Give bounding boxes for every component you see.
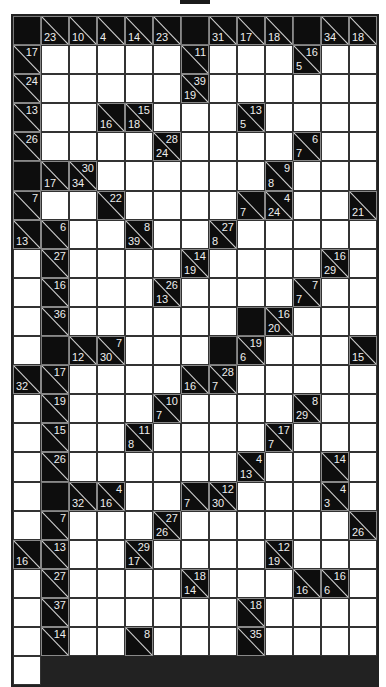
entry-cell[interactable] — [181, 452, 209, 481]
entry-cell[interactable] — [349, 365, 377, 394]
entry-cell[interactable] — [97, 307, 125, 336]
entry-cell[interactable] — [125, 336, 153, 365]
entry-cell[interactable] — [321, 132, 349, 161]
entry-cell[interactable] — [209, 307, 237, 336]
entry-cell[interactable] — [321, 74, 349, 103]
entry-cell[interactable] — [153, 627, 181, 656]
entry-cell[interactable] — [209, 132, 237, 161]
entry-cell[interactable] — [293, 423, 321, 452]
entry-cell[interactable] — [209, 598, 237, 627]
entry-cell[interactable] — [97, 569, 125, 598]
entry-cell[interactable] — [265, 220, 293, 249]
entry-cell[interactable] — [293, 336, 321, 365]
entry-cell[interactable] — [125, 45, 153, 74]
entry-cell[interactable] — [349, 482, 377, 511]
entry-cell[interactable] — [349, 74, 377, 103]
entry-cell[interactable] — [293, 103, 321, 132]
entry-cell[interactable] — [293, 74, 321, 103]
entry-cell[interactable] — [13, 656, 41, 685]
entry-cell[interactable] — [41, 74, 69, 103]
entry-cell[interactable] — [265, 482, 293, 511]
entry-cell[interactable] — [321, 191, 349, 220]
entry-cell[interactable] — [181, 394, 209, 423]
entry-cell[interactable] — [13, 423, 41, 452]
entry-cell[interactable] — [69, 74, 97, 103]
entry-cell[interactable] — [293, 598, 321, 627]
entry-cell[interactable] — [237, 511, 265, 540]
entry-cell[interactable] — [265, 132, 293, 161]
entry-cell[interactable] — [153, 452, 181, 481]
entry-cell[interactable] — [69, 365, 97, 394]
entry-cell[interactable] — [237, 45, 265, 74]
entry-cell[interactable] — [181, 540, 209, 569]
entry-cell[interactable] — [153, 598, 181, 627]
entry-cell[interactable] — [321, 336, 349, 365]
entry-cell[interactable] — [125, 132, 153, 161]
entry-cell[interactable] — [13, 569, 41, 598]
entry-cell[interactable] — [13, 627, 41, 656]
entry-cell[interactable] — [209, 103, 237, 132]
entry-cell[interactable] — [349, 278, 377, 307]
entry-cell[interactable] — [69, 540, 97, 569]
entry-cell[interactable] — [349, 423, 377, 452]
entry-cell[interactable] — [237, 220, 265, 249]
entry-cell[interactable] — [125, 511, 153, 540]
entry-cell[interactable] — [237, 569, 265, 598]
entry-cell[interactable] — [209, 278, 237, 307]
entry-cell[interactable] — [265, 627, 293, 656]
entry-cell[interactable] — [209, 161, 237, 190]
entry-cell[interactable] — [125, 161, 153, 190]
entry-cell[interactable] — [321, 423, 349, 452]
entry-cell[interactable] — [125, 278, 153, 307]
entry-cell[interactable] — [209, 249, 237, 278]
entry-cell[interactable] — [349, 540, 377, 569]
entry-cell[interactable] — [209, 627, 237, 656]
entry-cell[interactable] — [181, 278, 209, 307]
entry-cell[interactable] — [293, 249, 321, 278]
entry-cell[interactable] — [181, 220, 209, 249]
entry-cell[interactable] — [349, 394, 377, 423]
entry-cell[interactable] — [69, 132, 97, 161]
entry-cell[interactable] — [69, 278, 97, 307]
entry-cell[interactable] — [293, 365, 321, 394]
entry-cell[interactable] — [13, 336, 41, 365]
entry-cell[interactable] — [13, 249, 41, 278]
entry-cell[interactable] — [125, 569, 153, 598]
entry-cell[interactable] — [13, 482, 41, 511]
entry-cell[interactable] — [349, 220, 377, 249]
entry-cell[interactable] — [125, 394, 153, 423]
entry-cell[interactable] — [237, 394, 265, 423]
entry-cell[interactable] — [97, 161, 125, 190]
entry-cell[interactable] — [293, 452, 321, 481]
entry-cell[interactable] — [237, 74, 265, 103]
entry-cell[interactable] — [265, 598, 293, 627]
entry-cell[interactable] — [321, 540, 349, 569]
entry-cell[interactable] — [349, 132, 377, 161]
entry-cell[interactable] — [293, 191, 321, 220]
entry-cell[interactable] — [153, 220, 181, 249]
entry-cell[interactable] — [153, 569, 181, 598]
entry-cell[interactable] — [69, 45, 97, 74]
entry-cell[interactable] — [209, 394, 237, 423]
entry-cell[interactable] — [13, 394, 41, 423]
entry-cell[interactable] — [125, 482, 153, 511]
entry-cell[interactable] — [153, 423, 181, 452]
entry-cell[interactable] — [293, 307, 321, 336]
entry-cell[interactable] — [321, 103, 349, 132]
entry-cell[interactable] — [41, 132, 69, 161]
entry-cell[interactable] — [153, 307, 181, 336]
entry-cell[interactable] — [237, 249, 265, 278]
entry-cell[interactable] — [97, 220, 125, 249]
entry-cell[interactable] — [97, 394, 125, 423]
entry-cell[interactable] — [69, 191, 97, 220]
entry-cell[interactable] — [97, 511, 125, 540]
entry-cell[interactable] — [209, 423, 237, 452]
entry-cell[interactable] — [97, 249, 125, 278]
entry-cell[interactable] — [69, 627, 97, 656]
entry-cell[interactable] — [237, 482, 265, 511]
entry-cell[interactable] — [97, 45, 125, 74]
entry-cell[interactable] — [181, 161, 209, 190]
entry-cell[interactable] — [97, 278, 125, 307]
entry-cell[interactable] — [125, 74, 153, 103]
entry-cell[interactable] — [181, 336, 209, 365]
